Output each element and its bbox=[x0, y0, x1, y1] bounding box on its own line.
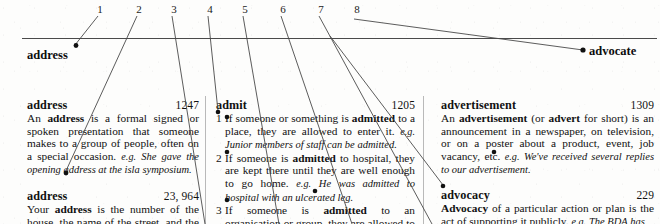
sense-definition: If someone or something is admitted to a… bbox=[225, 112, 415, 137]
endpoint-dot-1 bbox=[74, 43, 79, 48]
anchor-word-advocate: advocate bbox=[589, 44, 636, 59]
callout-number-2: 2 bbox=[131, 3, 147, 15]
annotated-dictionary-page: address 1247 An address is a formal sign… bbox=[0, 0, 660, 224]
example-label: e.g. bbox=[505, 151, 520, 162]
example-label: e.g. bbox=[400, 126, 415, 137]
entry-body: An advertisement (or advert for short) i… bbox=[441, 112, 654, 177]
entry-headword: address bbox=[27, 189, 67, 203]
entry-headword: admit bbox=[216, 98, 247, 112]
dictionary-entry: address 23, 964 Your address is the numb… bbox=[27, 189, 199, 224]
entry-header-row: advocacy 229 bbox=[441, 188, 654, 202]
anchor-word-address: address bbox=[27, 48, 68, 63]
sense-example: Junior members of staff can be admitted. bbox=[225, 139, 397, 150]
entry-headword: address bbox=[27, 98, 67, 112]
entry-sense: 1If someone or something is admitted to … bbox=[216, 112, 415, 152]
entry-header-row: address 23, 964 bbox=[27, 189, 199, 203]
entry-frequency-number: 229 bbox=[636, 188, 654, 202]
callout-number-1: 1 bbox=[92, 3, 108, 15]
entry-definition: Your address is the number of the house,… bbox=[27, 203, 199, 224]
callout-number-3: 3 bbox=[166, 3, 182, 15]
dictionary-columns: address 1247 An address is a formal sign… bbox=[0, 96, 660, 224]
entry-headword: advertisement bbox=[441, 98, 516, 112]
entry-header-row: admit 1205 bbox=[216, 98, 415, 112]
callout-number-4: 4 bbox=[202, 3, 218, 15]
dictionary-column-3: advertisement 1309 An advertisement (or … bbox=[423, 96, 660, 224]
entry-header-row: advertisement 1309 bbox=[441, 98, 654, 112]
example-label: e.g. bbox=[571, 216, 586, 224]
leader-line-8 bbox=[354, 19, 583, 50]
sense-number: 3 bbox=[216, 204, 225, 217]
sense-number: 2 bbox=[216, 152, 225, 165]
dictionary-entry: address 1247 An address is a formal sign… bbox=[27, 98, 199, 177]
entry-frequency-number: 1205 bbox=[392, 98, 415, 112]
dictionary-column-1: address 1247 An address is a formal sign… bbox=[0, 96, 205, 224]
entry-body: Your address is the number of the house,… bbox=[27, 203, 199, 224]
entry-sense: 2If someone is admitted to hospital, the… bbox=[216, 152, 415, 204]
entry-headword: advocacy bbox=[441, 188, 490, 202]
dictionary-column-2: admit 1205 1If someone or something is a… bbox=[205, 96, 423, 224]
dictionary-entry: advocacy 229 Advocacy of a particular ac… bbox=[441, 188, 654, 224]
callout-number-5: 5 bbox=[237, 3, 253, 15]
example-label: e.g. bbox=[121, 151, 136, 162]
dictionary-entry: admit 1205 1If someone or something is a… bbox=[216, 98, 415, 224]
entry-body: An address is a formal signed or spoken … bbox=[27, 112, 199, 177]
entry-header-row: address 1247 bbox=[27, 98, 199, 112]
entry-body: Advocacy of a particular action or plan … bbox=[441, 202, 654, 224]
endpoint-dot-8 bbox=[580, 47, 585, 52]
callout-number-6: 6 bbox=[275, 3, 291, 15]
entry-sense: 3If someone is admitted to an organisati… bbox=[216, 204, 415, 224]
example-label: e.g. bbox=[296, 178, 311, 189]
sense-definition: If someone is admitted to an organisatio… bbox=[225, 204, 415, 224]
entry-frequency-number: 23, 964 bbox=[164, 189, 199, 203]
callout-number-8: 8 bbox=[349, 3, 365, 15]
sense-number: 1 bbox=[216, 112, 225, 125]
dictionary-entry: advertisement 1309 An advertisement (or … bbox=[441, 98, 654, 177]
entry-frequency-number: 1309 bbox=[631, 98, 654, 112]
leader-line-1 bbox=[75, 16, 98, 45]
callout-number-7: 7 bbox=[313, 3, 329, 15]
entry-frequency-number: 1247 bbox=[176, 98, 199, 112]
entry-example: The BDA has bbox=[589, 216, 645, 224]
